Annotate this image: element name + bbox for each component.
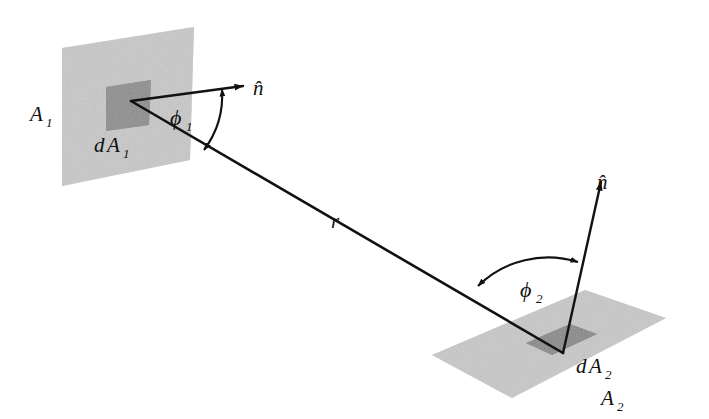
label-angle-phi1-main: ϕ xyxy=(170,105,181,130)
label-darea-da2-d: d xyxy=(576,354,587,378)
label-area-a2-subscript: 2 xyxy=(617,399,624,414)
label-area-a1-main: A xyxy=(28,102,43,126)
label-darea-da1-a: A xyxy=(105,133,120,157)
label-darea-da1-subscript: 1 xyxy=(123,146,130,161)
label-area-a1: A 1 xyxy=(28,102,53,130)
label-darea-da2-a: A xyxy=(587,354,602,378)
distance-ray-r-line xyxy=(131,101,563,353)
label-angle-phi2-main: ϕ xyxy=(520,277,531,302)
label-angle-phi1-subscript: 1 xyxy=(186,119,193,134)
label-angle-phi2: ϕ 2 xyxy=(520,277,543,306)
label-angle-phi2-subscript: 2 xyxy=(536,291,543,306)
label-darea-da2: d A 2 xyxy=(576,354,612,382)
differential-area-da1-patch-grain xyxy=(106,80,151,131)
label-darea-da2-subscript: 2 xyxy=(605,367,612,382)
label-normal-n1: n̂ xyxy=(253,76,264,100)
label-area-a2: A 2 xyxy=(599,386,624,414)
figure-canvas: A 1 d A 1 n̂ ϕ 1 r n̂ ϕ 2 d A 2 xyxy=(0,0,709,419)
label-area-a2-main: A xyxy=(599,386,614,410)
radiative-exchange-diagram: A 1 d A 1 n̂ ϕ 1 r n̂ ϕ 2 d A 2 xyxy=(0,0,709,419)
label-darea-da1-d: d xyxy=(94,133,105,157)
label-distance-r: r xyxy=(331,209,340,233)
angle-arc-phi1 xyxy=(204,89,222,150)
label-normal-n2: n̂ xyxy=(597,170,608,194)
label-area-a1-subscript: 1 xyxy=(46,115,53,130)
